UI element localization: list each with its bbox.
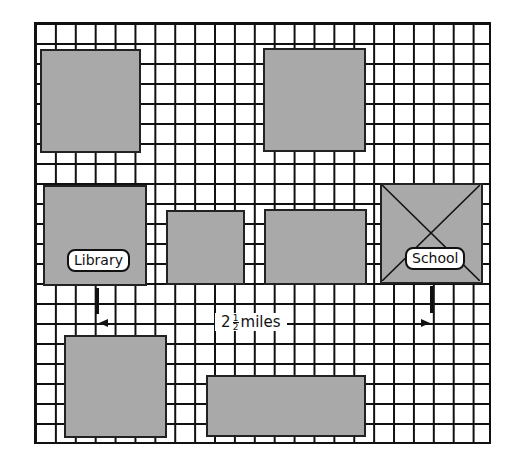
block-bottom-wide bbox=[206, 375, 366, 437]
library-label: Library bbox=[67, 249, 130, 272]
arrow-left-icon bbox=[99, 319, 108, 327]
arrow-right-icon bbox=[421, 319, 430, 327]
school-tick bbox=[430, 286, 433, 313]
distance-whole: 2 bbox=[221, 313, 231, 331]
distance-fraction: 12 bbox=[233, 314, 239, 331]
school-label: School bbox=[405, 247, 465, 270]
distance-unit: miles bbox=[241, 313, 281, 331]
block-middle-wide bbox=[264, 209, 367, 285]
block-bottom-left bbox=[64, 335, 167, 438]
library-tick bbox=[96, 288, 99, 314]
distance-label: 212miles bbox=[215, 313, 287, 331]
block-middle-small bbox=[166, 210, 245, 285]
block-top-right bbox=[263, 48, 366, 152]
block-top-left bbox=[40, 49, 141, 153]
